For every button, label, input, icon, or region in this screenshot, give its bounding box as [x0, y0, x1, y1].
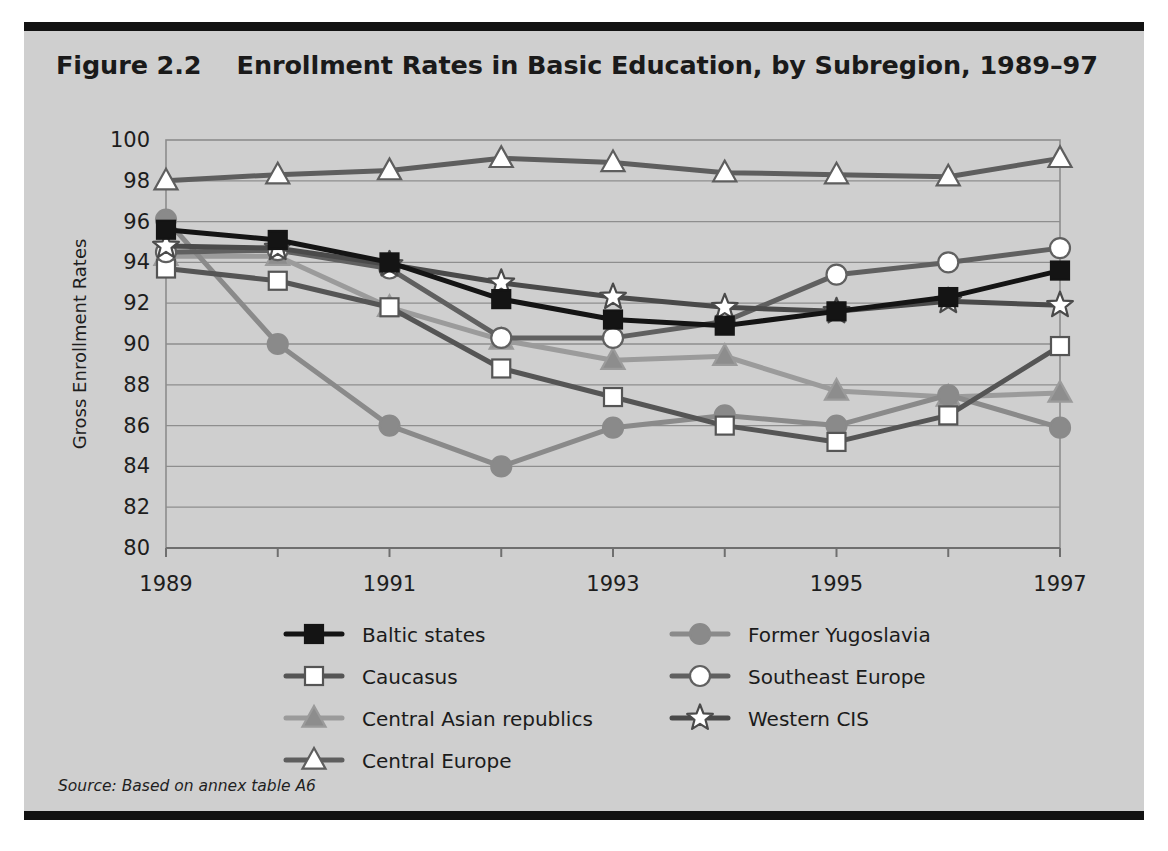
marker-square-filled	[604, 311, 622, 329]
y-tick-label-94: 94	[123, 250, 150, 274]
marker-star-open	[600, 284, 626, 308]
legend-label: Western CIS	[748, 707, 869, 731]
y-tick-label-100: 100	[110, 128, 150, 152]
marker-circle-open	[827, 265, 847, 285]
figure-title: Figure 2.2 Enrollment Rates in Basic Edu…	[56, 50, 1098, 80]
marker-square-open	[305, 667, 323, 685]
marker-circle-open	[491, 328, 511, 348]
source-note: Source: Based on annex table A6	[58, 777, 316, 795]
y-tick-label-92: 92	[123, 291, 150, 315]
marker-circle-filled	[938, 385, 958, 405]
legend-item-central-europe[interactable]: Central Europe	[286, 748, 512, 773]
marker-circle-filled	[380, 416, 400, 436]
marker-square-open	[1051, 337, 1069, 355]
marker-square-filled	[269, 231, 287, 249]
x-tick-label-1993: 1993	[586, 572, 639, 596]
y-tick-label-86: 86	[123, 414, 150, 438]
legend-label: Central Asian republics	[362, 707, 593, 731]
marker-circle-open	[603, 328, 623, 348]
legend-item-western-cis[interactable]: Western CIS	[672, 705, 869, 732]
top-rule	[24, 22, 1144, 31]
marker-circle-filled	[690, 624, 710, 644]
x-axis-tick-labels: 19891991199319951997	[139, 572, 1086, 596]
marker-square-open	[381, 298, 399, 316]
y-axis-tick-labels: 80828486889092949698100	[110, 128, 150, 560]
figure-panel: Figure 2.2 Enrollment Rates in Basic Edu…	[24, 22, 1144, 820]
marker-star-open	[687, 705, 713, 729]
marker-square-open	[939, 406, 957, 424]
marker-square-open	[716, 417, 734, 435]
y-axis-title-text: Gross Enrollment Rates	[69, 239, 90, 450]
marker-square-open	[828, 433, 846, 451]
legend-item-caucasus[interactable]: Caucasus	[286, 665, 458, 689]
marker-square-filled	[157, 221, 175, 239]
y-tick-label-96: 96	[123, 210, 150, 234]
marker-square-filled	[381, 253, 399, 271]
marker-circle-open	[690, 666, 710, 686]
legend-label: Former Yugoslavia	[748, 623, 931, 647]
marker-circle-filled	[603, 418, 623, 438]
legend-label: Southeast Europe	[748, 665, 926, 689]
legend-item-southeast-europe[interactable]: Southeast Europe	[672, 665, 926, 689]
marker-square-filled	[492, 290, 510, 308]
legend-label: Baltic states	[362, 623, 485, 647]
marker-circle-filled	[491, 456, 511, 476]
series-central-europe	[154, 146, 1071, 189]
enrollment-rates-line-chart: 80828486889092949698100 1989199119931995…	[24, 82, 1144, 782]
legend-item-former-yugoslavia[interactable]: Former Yugoslavia	[672, 623, 931, 647]
y-axis-title: Gross Enrollment Rates	[69, 239, 90, 450]
marker-square-open	[492, 359, 510, 377]
y-tick-label-80: 80	[123, 536, 150, 560]
y-tick-label-84: 84	[123, 454, 150, 478]
legend-item-central-asian-republics[interactable]: Central Asian republics	[286, 706, 593, 731]
marker-circle-filled	[1050, 418, 1070, 438]
x-tick-label-1995: 1995	[810, 572, 863, 596]
figure-root: Figure 2.2 Enrollment Rates in Basic Edu…	[0, 0, 1168, 851]
marker-circle-open	[1050, 238, 1070, 258]
y-tick-label-90: 90	[123, 332, 150, 356]
y-tick-label-88: 88	[123, 373, 150, 397]
x-axis	[166, 548, 1060, 557]
marker-square-open	[269, 272, 287, 290]
marker-triangle-open	[1048, 146, 1071, 167]
series-baltic-states	[157, 221, 1069, 335]
marker-circle-filled	[268, 334, 288, 354]
marker-square-filled	[828, 302, 846, 320]
x-tick-label-1997: 1997	[1033, 572, 1086, 596]
marker-circle-open	[938, 252, 958, 272]
legend-label: Caucasus	[362, 665, 458, 689]
marker-square-filled	[939, 288, 957, 306]
y-tick-label-98: 98	[123, 169, 150, 193]
legend-label: Central Europe	[362, 749, 512, 773]
marker-square-open	[604, 388, 622, 406]
marker-square-filled	[716, 317, 734, 335]
series-layer	[153, 146, 1073, 476]
x-tick-label-1991: 1991	[363, 572, 416, 596]
series-western-cis	[153, 233, 1073, 323]
legend-item-baltic-states[interactable]: Baltic states	[286, 623, 485, 647]
bottom-rule	[24, 811, 1144, 820]
x-tick-label-1989: 1989	[139, 572, 192, 596]
marker-square-filled	[1051, 262, 1069, 280]
y-tick-label-82: 82	[123, 495, 150, 519]
marker-square-filled	[305, 625, 323, 643]
chart-legend: Baltic statesCaucasusCentral Asian repub…	[286, 623, 931, 773]
